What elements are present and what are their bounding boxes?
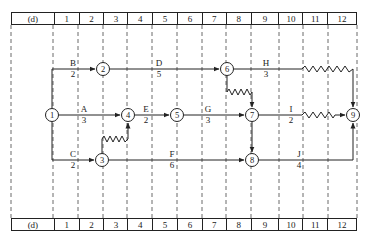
time-tick: 5 <box>152 13 177 24</box>
time-unit-label: (d) <box>12 219 54 230</box>
activity-name-c: C <box>70 150 76 159</box>
event-node-5: 5 <box>170 108 184 122</box>
activity-name-e: E <box>143 105 149 114</box>
time-tick: 9 <box>251 219 279 230</box>
activity-name-d: D <box>156 59 163 68</box>
time-tick: 11 <box>302 219 327 230</box>
time-tick: 5 <box>152 219 177 230</box>
time-tick: 12 <box>327 219 356 230</box>
activity-duration-d: 5 <box>157 70 162 79</box>
activity-name-j: J <box>297 150 301 159</box>
activity-duration-a: 3 <box>82 116 87 125</box>
activity-duration-b: 2 <box>71 70 76 79</box>
activity-duration-g: 3 <box>206 116 211 125</box>
time-tick: 1 <box>54 219 79 230</box>
time-tick: 6 <box>177 13 202 24</box>
activity-duration-h: 3 <box>264 70 269 79</box>
time-tick: 3 <box>103 13 127 24</box>
event-node-4: 4 <box>121 108 135 122</box>
activity-arrows <box>52 66 353 160</box>
event-node-9: 9 <box>346 108 360 122</box>
time-tick: 10 <box>278 219 302 230</box>
time-tick: 7 <box>202 219 226 230</box>
time-gridlines <box>11 25 357 218</box>
activity-name-i: I <box>290 105 293 114</box>
activity-duration-e: 2 <box>144 116 149 125</box>
time-tick: 8 <box>226 13 251 24</box>
activity-name-f: F <box>169 150 174 159</box>
time-unit-label: (d) <box>12 13 54 24</box>
time-tick: 7 <box>202 13 226 24</box>
time-tick: 9 <box>251 13 279 24</box>
time-tick: 2 <box>79 13 104 24</box>
activity-duration-c: 2 <box>71 161 76 170</box>
activity-duration-j: 4 <box>297 161 302 170</box>
activity-name-g: G <box>205 105 212 114</box>
time-scale-header: (d) 1 2 3 4 5 6 7 8 9 10 11 12 <box>11 12 357 25</box>
activity-duration-i: 2 <box>289 116 294 125</box>
event-node-6: 6 <box>220 62 234 76</box>
time-tick: 3 <box>103 219 127 230</box>
time-tick: 4 <box>127 13 152 24</box>
time-tick: 12 <box>327 13 356 24</box>
time-tick: 8 <box>226 219 251 230</box>
time-tick: 4 <box>127 219 152 230</box>
event-node-7: 7 <box>245 108 259 122</box>
activity-name-h: H <box>263 59 270 68</box>
time-tick: 11 <box>302 13 327 24</box>
time-tick: 10 <box>278 13 302 24</box>
event-node-8: 8 <box>245 153 259 167</box>
time-scale-footer: (d) 1 2 3 4 5 6 7 8 9 10 11 12 <box>11 218 357 231</box>
event-node-3: 3 <box>95 153 109 167</box>
time-tick: 2 <box>79 219 104 230</box>
activity-name-a: A <box>81 105 88 114</box>
activity-name-b: B <box>70 59 76 68</box>
time-tick: 1 <box>54 13 79 24</box>
event-node-2: 2 <box>96 62 110 76</box>
network-diagram <box>0 0 368 243</box>
time-tick: 6 <box>177 219 202 230</box>
event-node-1: 1 <box>45 108 59 122</box>
activity-duration-f: 6 <box>170 161 175 170</box>
